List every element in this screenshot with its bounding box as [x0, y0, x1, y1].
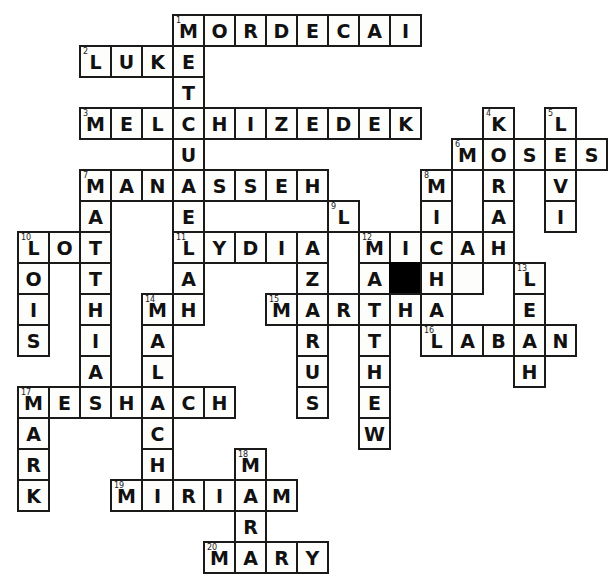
crossword-cell[interactable]: 18M	[234, 448, 267, 481]
crossword-cell[interactable]: I	[79, 324, 112, 357]
crossword-cell[interactable]: 7M	[79, 169, 112, 202]
crossword-cell[interactable]: A	[79, 355, 112, 388]
crossword-cell[interactable]: T	[172, 76, 205, 109]
crossword-cell[interactable]: D	[327, 107, 360, 140]
crossword-cell[interactable]: D	[265, 14, 298, 47]
crossword-cell[interactable]: H	[79, 293, 112, 326]
crossword-cell[interactable]: 13L	[513, 262, 546, 295]
crossword-cell[interactable]: U	[172, 138, 205, 171]
crossword-cell[interactable]: O	[48, 231, 81, 264]
crossword-cell[interactable]: 6M	[451, 138, 484, 171]
crossword-cell[interactable]: R	[327, 293, 360, 326]
crossword-cell[interactable]	[451, 262, 484, 295]
crossword-cell[interactable]: Z	[265, 107, 298, 140]
crossword-cell[interactable]: I	[203, 479, 236, 512]
crossword-cell[interactable]: 4K	[482, 107, 515, 140]
crossword-cell[interactable]: K	[17, 479, 50, 512]
crossword-cell[interactable]: I	[389, 14, 422, 47]
crossword-cell[interactable]: A	[234, 479, 267, 512]
crossword-cell[interactable]: T	[358, 324, 391, 357]
crossword-cell[interactable]: 15M	[265, 293, 298, 326]
crossword-cell[interactable]: A	[482, 200, 515, 233]
crossword-cell[interactable]: S	[575, 138, 608, 171]
crossword-cell[interactable]: E	[296, 107, 329, 140]
crossword-cell[interactable]: H	[420, 262, 453, 295]
crossword-cell[interactable]: E	[544, 138, 577, 171]
crossword-cell[interactable]: 8M	[420, 169, 453, 202]
crossword-cell[interactable]: N	[141, 169, 174, 202]
crossword-cell[interactable]: H	[358, 355, 391, 388]
crossword-cell[interactable]: I	[420, 200, 453, 233]
crossword-cell[interactable]: E	[265, 169, 298, 202]
crossword-cell[interactable]: C	[172, 107, 205, 140]
crossword-cell[interactable]: H	[141, 448, 174, 481]
crossword-cell[interactable]: 19M	[110, 479, 143, 512]
crossword-cell[interactable]: A	[358, 14, 391, 47]
crossword-cell[interactable]: 10L	[17, 231, 50, 264]
crossword-cell[interactable]: H	[296, 169, 329, 202]
crossword-cell[interactable]: C	[141, 417, 174, 450]
crossword-cell[interactable]: E	[172, 45, 205, 78]
crossword-cell[interactable]: 14M	[141, 293, 174, 326]
crossword-cell[interactable]: W	[358, 417, 391, 450]
crossword-cell[interactable]: E	[110, 107, 143, 140]
crossword-cell[interactable]: A	[110, 169, 143, 202]
crossword-cell[interactable]: L	[141, 107, 174, 140]
crossword-cell[interactable]: H	[110, 386, 143, 419]
crossword-cell[interactable]: N	[544, 324, 577, 357]
crossword-cell[interactable]: R	[17, 448, 50, 481]
crossword-cell[interactable]: I	[389, 231, 422, 264]
crossword-cell[interactable]: H	[203, 107, 236, 140]
crossword-cell[interactable]: T	[79, 262, 112, 295]
crossword-cell[interactable]: R	[265, 541, 298, 574]
crossword-cell[interactable]: U	[110, 45, 143, 78]
crossword-cell[interactable]: A	[79, 200, 112, 233]
crossword-cell[interactable]: E	[48, 386, 81, 419]
crossword-cell[interactable]: I	[544, 200, 577, 233]
crossword-cell[interactable]: A	[420, 293, 453, 326]
crossword-cell[interactable]: H	[172, 293, 205, 326]
crossword-cell[interactable]: H	[513, 355, 546, 388]
crossword-cell[interactable]: L	[141, 355, 174, 388]
crossword-cell[interactable]: S	[234, 169, 267, 202]
crossword-cell[interactable]: C	[327, 14, 360, 47]
crossword-cell[interactable]: H	[203, 386, 236, 419]
crossword-cell[interactable]: C	[172, 386, 205, 419]
crossword-cell[interactable]: O	[203, 14, 236, 47]
crossword-cell[interactable]: A	[141, 324, 174, 357]
crossword-cell[interactable]: I	[17, 293, 50, 326]
crossword-cell[interactable]: V	[544, 169, 577, 202]
crossword-cell[interactable]: I	[265, 231, 298, 264]
crossword-cell[interactable]: I	[234, 107, 267, 140]
crossword-cell[interactable]: O	[482, 138, 515, 171]
crossword-cell[interactable]: A	[451, 231, 484, 264]
crossword-cell[interactable]: O	[17, 262, 50, 295]
crossword-cell[interactable]: T	[79, 231, 112, 264]
crossword-cell[interactable]: 3M	[79, 107, 112, 140]
crossword-cell[interactable]: A	[141, 386, 174, 419]
crossword-cell[interactable]: 9L	[327, 200, 360, 233]
crossword-cell[interactable]: Y	[296, 541, 329, 574]
crossword-cell[interactable]: E	[172, 200, 205, 233]
crossword-cell[interactable]: A	[234, 541, 267, 574]
crossword-cell[interactable]: K	[389, 107, 422, 140]
crossword-cell[interactable]: A	[172, 169, 205, 202]
crossword-cell[interactable]: 1M	[172, 14, 205, 47]
crossword-cell[interactable]: E	[296, 14, 329, 47]
crossword-cell[interactable]: E	[358, 386, 391, 419]
crossword-cell[interactable]: 2L	[79, 45, 112, 78]
crossword-cell[interactable]: 12M	[358, 231, 391, 264]
crossword-cell[interactable]: 11L	[172, 231, 205, 264]
crossword-cell[interactable]: S	[513, 138, 546, 171]
crossword-cell[interactable]: R	[234, 14, 267, 47]
crossword-cell[interactable]: A	[172, 262, 205, 295]
crossword-cell[interactable]: E	[358, 107, 391, 140]
crossword-cell[interactable]: S	[203, 169, 236, 202]
crossword-cell[interactable]: 20M	[203, 541, 236, 574]
crossword-cell[interactable]: K	[141, 45, 174, 78]
crossword-cell[interactable]: A	[296, 293, 329, 326]
crossword-cell[interactable]: R	[234, 510, 267, 543]
crossword-cell[interactable]: R	[482, 169, 515, 202]
crossword-cell[interactable]: R	[296, 324, 329, 357]
crossword-cell[interactable]: I	[141, 479, 174, 512]
